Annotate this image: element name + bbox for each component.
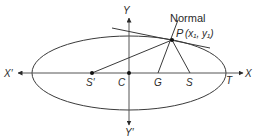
y-axis-label: Y	[123, 5, 131, 16]
p-label: P	[176, 27, 184, 39]
ellipse-diagram: Normal P (x₁, y₁) Y Y′ X′ X S′ C G S T	[0, 0, 255, 138]
point-s-prime	[90, 71, 94, 75]
p-coords-label: (x₁, y₁)	[185, 28, 214, 39]
normal-label: Normal	[170, 12, 205, 24]
s-prime-label: S′	[86, 77, 96, 88]
x-axis-label: X	[244, 68, 252, 79]
g-label: G	[154, 77, 162, 88]
t-label: T	[226, 75, 233, 86]
point-c	[127, 71, 131, 75]
y-prime-axis-label: Y′	[125, 127, 135, 138]
s-label: S	[186, 77, 193, 88]
focal-radius-right	[172, 40, 190, 73]
x-prime-axis-label: X′	[3, 68, 14, 79]
point-p	[170, 38, 174, 42]
c-label: C	[118, 77, 126, 88]
